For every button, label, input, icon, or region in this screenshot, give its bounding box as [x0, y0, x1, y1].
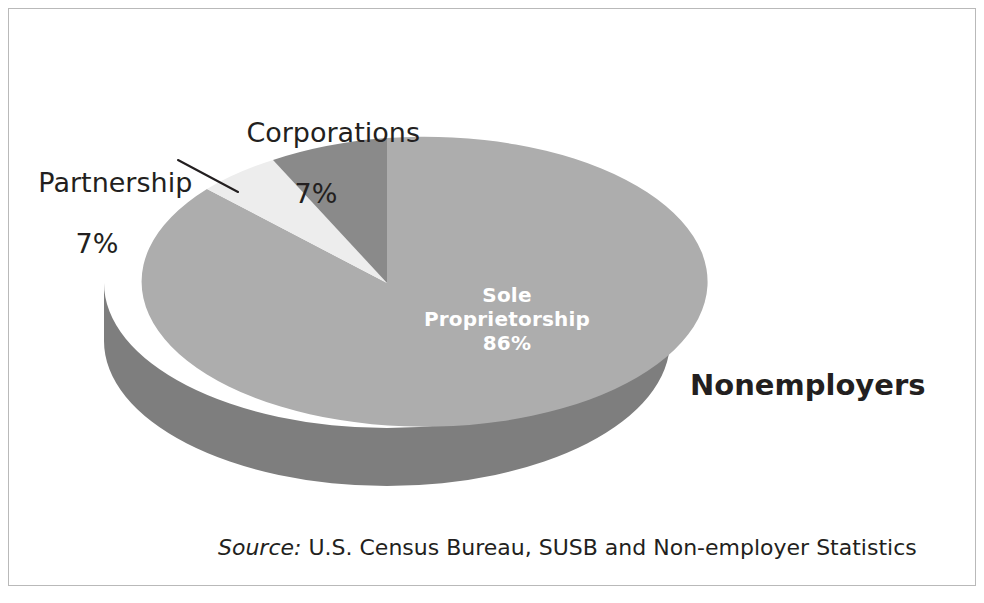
source-note: Source: U.S. Census Bureau, SUSB and Non… — [218, 535, 917, 560]
pie-chart-figure: Corporations 7% Partnership 7% Sole Prop… — [0, 0, 984, 603]
partnership-name: Partnership — [38, 167, 192, 198]
slice-label-corporations: Corporations 7% — [208, 88, 424, 269]
corporations-name: Corporations — [246, 117, 420, 148]
source-keyword: Source: — [218, 535, 301, 560]
source-text: U.S. Census Bureau, SUSB and Non-employe… — [301, 535, 916, 560]
sole-proprietorship-percent: 86% — [398, 331, 616, 355]
chart-title: Nonemployers — [690, 368, 925, 402]
partnership-percent: 7% — [4, 229, 190, 259]
slice-label-partnership: Partnership 7% — [4, 138, 190, 319]
sole-proprietorship-name-line1: Sole — [398, 283, 616, 307]
sole-proprietorship-name-line2: Proprietorship — [398, 307, 616, 331]
corporations-percent: 7% — [208, 179, 424, 209]
slice-label-sole-proprietorship: Sole Proprietorship 86% — [398, 283, 616, 355]
